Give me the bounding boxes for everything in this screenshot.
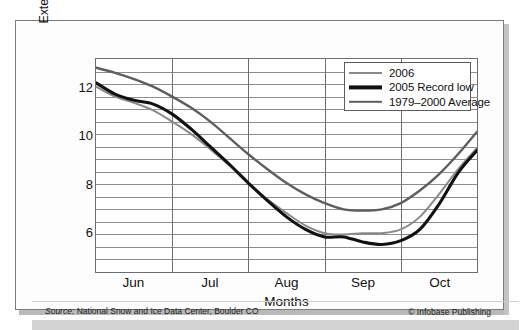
x-tick-jun: Jun xyxy=(95,276,172,290)
chart-legend: 2006 2005 Record low 1979–2000 Average xyxy=(344,62,471,111)
y-tick-6: 6 xyxy=(71,226,93,239)
legend-item-2006: 2006 xyxy=(349,66,466,80)
card-shadow-right xyxy=(504,24,509,315)
y-axis-tick-labels: 12 10 8 6 xyxy=(69,58,93,273)
legend-item-1979-2000-average: 1979–2000 Average xyxy=(349,95,466,109)
x-tick-oct: Oct xyxy=(401,276,478,290)
y-tick-10: 10 xyxy=(71,129,93,142)
legend-line-icon-2005-record-low xyxy=(349,82,382,92)
x-tick-jul: Jul xyxy=(172,276,249,290)
x-tick-sep: Sep xyxy=(325,276,402,290)
x-tick-aug: Aug xyxy=(248,276,325,290)
legend-line-icon-2006 xyxy=(349,68,382,78)
legend-label-2005-record-low: 2005 Record low xyxy=(389,81,474,93)
legend-line-icon-1979-2000-average xyxy=(349,97,382,107)
y-tick-12: 12 xyxy=(71,81,93,94)
source-text: National Snow and Ice Data Center, Bould… xyxy=(77,306,259,316)
legend-label-1979-2000-average: 1979–2000 Average xyxy=(389,96,490,108)
footer-divider xyxy=(32,301,519,302)
source-note: Source: National Snow and Ice Data Cente… xyxy=(45,306,259,316)
chart-screenshot: Extent (millions of square kilometers) 1… xyxy=(0,0,524,330)
chart-card: Extent (millions of square kilometers) 1… xyxy=(15,20,504,310)
source-prefix: Source: xyxy=(45,306,74,316)
y-tick-8: 8 xyxy=(71,178,93,191)
legend-label-2006: 2006 xyxy=(389,67,414,79)
y-axis-title: Extent (millions of square kilometers) xyxy=(29,0,59,39)
legend-item-2005-record-low: 2005 Record low xyxy=(349,80,466,94)
publisher-credit: © Infobase Publishing xyxy=(408,307,491,317)
x-axis-tick-labels: Jun Jul Aug Sep Oct xyxy=(95,276,478,296)
scan-bottom-band xyxy=(32,320,519,330)
